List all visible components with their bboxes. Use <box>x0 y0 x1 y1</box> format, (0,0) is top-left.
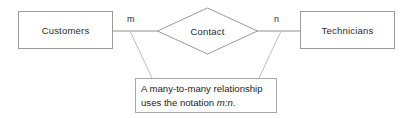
relationship-label-contact: Contact <box>157 22 258 40</box>
cardinality-label-right: n <box>274 14 279 25</box>
callout-leader-line-right <box>259 31 281 78</box>
callout-leader-line-left <box>130 31 152 78</box>
entity-box-customers[interactable]: Customers <box>18 11 113 49</box>
entity-label-customers: Customers <box>42 25 90 36</box>
callout-note-line-2-prefix: uses the notation <box>141 97 217 108</box>
callout-note-line-2-suffix: . <box>233 97 236 108</box>
cardinality-label-left: m <box>127 14 135 25</box>
callout-note-line-1: A many-to-many relationship <box>141 82 271 96</box>
entity-box-technicians[interactable]: Technicians <box>300 11 395 49</box>
callout-note-line-2: uses the notation m:n. <box>141 96 271 110</box>
entity-label-technicians: Technicians <box>322 25 374 36</box>
er-diagram-canvas: Customers Technicians Contact m n A many… <box>0 0 412 118</box>
callout-note-notation-italic: m:n <box>217 97 233 108</box>
callout-note-box: A many-to-many relationship uses the not… <box>135 78 277 113</box>
